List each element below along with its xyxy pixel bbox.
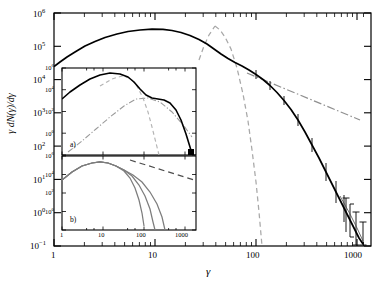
log-log-spectrum-plot — [0, 0, 382, 285]
inset-a-label: a) — [70, 140, 76, 149]
y-tick-1e1: 101 — [33, 173, 45, 185]
inset-b-x-tick-1: 1 — [60, 231, 63, 238]
y-tick-1e6: 106 — [33, 7, 45, 19]
inset-b-label: b) — [70, 215, 76, 224]
inset-b-x-tick-10: 10 — [98, 231, 105, 238]
inset-b-y-tick-1e2: 102 — [45, 188, 54, 196]
inset-b-frame — [62, 156, 196, 230]
y-tick-1e4: 104 — [33, 73, 45, 85]
series-tail-alternate — [340, 196, 363, 241]
inset-a-y-tick-1e4: 104 — [45, 85, 54, 93]
inset-b-y-tick-1e4: 104 — [45, 170, 54, 178]
inset-a-y-tick-1e0: 100 — [45, 129, 54, 137]
x-tick-10: 10 — [148, 250, 157, 260]
inset-a-y-tick-1e2: 102 — [45, 107, 54, 115]
x-tick-100: 100 — [246, 250, 260, 260]
y-tick-1e5: 105 — [33, 40, 45, 52]
y-tick-1e2: 102 — [33, 140, 45, 152]
inset-b-y-tick-1e0: 100 — [45, 207, 54, 215]
error-bars — [256, 70, 367, 245]
inset-b-y-tick-1e6: 106 — [45, 151, 54, 159]
inset-a-y-tick-1e6: 106 — [45, 63, 54, 71]
x-axis-title: γ — [206, 265, 210, 277]
x-tick-1: 1 — [51, 250, 56, 260]
y-axis-title: γ dN(γ)/dγ — [5, 82, 16, 146]
inset-b-x-tick-100: 100 — [136, 231, 146, 238]
figure-panel: γ dN(γ)/dγ — [0, 0, 382, 285]
y-tick-1em1: 10−1 — [30, 239, 46, 251]
x-tick-1000: 1000 — [344, 250, 362, 260]
series-steep-cutoff-dashed-rise — [199, 26, 215, 60]
y-tick-1e0: 100 — [33, 206, 45, 218]
inset-b-x-tick-1000: 1000 — [175, 231, 188, 238]
y-tick-1e3: 103 — [33, 106, 45, 118]
series-steep-cutoff-dashed — [215, 26, 262, 246]
